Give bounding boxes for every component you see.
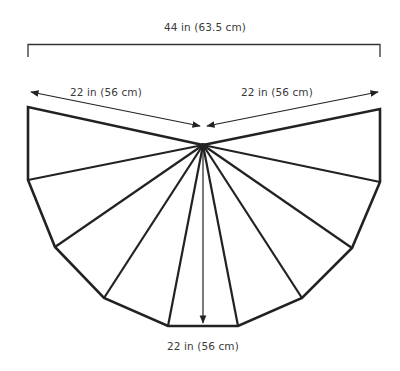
fan-outline (28, 107, 380, 326)
width-bracket (28, 45, 380, 58)
fan-diagram (0, 0, 400, 371)
radius-arrows (31, 92, 378, 323)
top-width-label: 44 in (63.5 cm) (164, 21, 246, 33)
right-radius-label: 22 in (56 cm) (241, 86, 313, 98)
depth-label: 22 in (56 cm) (167, 340, 239, 352)
fan-spokes (28, 145, 380, 326)
left-radius-label: 22 in (56 cm) (70, 86, 142, 98)
fan-center-point (200, 143, 206, 149)
